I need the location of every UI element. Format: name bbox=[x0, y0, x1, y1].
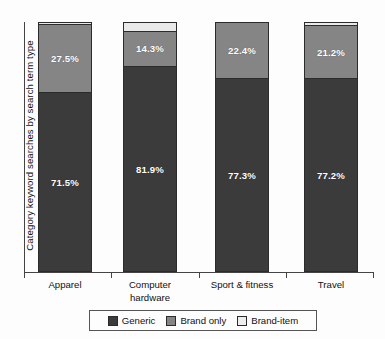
legend-swatch-generic-icon bbox=[108, 316, 118, 326]
x-axis-label-travel: Travel bbox=[291, 279, 371, 292]
segment-label-generic-sport-fitness: 77.3% bbox=[228, 170, 256, 181]
x-axis-label-computer-hardware-line2: hardware bbox=[110, 292, 190, 305]
legend-item-brand-item[interactable]: Brand-item bbox=[237, 315, 298, 326]
segment-label-brand-only-travel: 21.2% bbox=[317, 47, 345, 58]
segment-label-brand-only-sport-fitness: 22.4% bbox=[228, 45, 256, 56]
x-axis-label-apparel: Apparel bbox=[25, 279, 105, 292]
bar-travel[interactable]: 21.2% 77.2% bbox=[304, 22, 358, 272]
bar-apparel[interactable]: 27.5% 71.5% bbox=[38, 22, 92, 272]
x-axis-label-sport-fitness-line1: Sport & fitness bbox=[198, 279, 286, 292]
segment-brand-only-apparel[interactable]: 27.5% bbox=[39, 25, 91, 94]
bar-computer-hardware[interactable]: 14.3% 81.9% bbox=[123, 22, 177, 272]
segment-generic-travel[interactable]: 77.2% bbox=[305, 79, 357, 272]
segment-generic-apparel[interactable]: 71.5% bbox=[39, 93, 91, 272]
x-axis-label-apparel-line1: Apparel bbox=[25, 279, 105, 292]
bar-sport-fitness[interactable]: 22.4% 77.3% bbox=[215, 22, 269, 272]
segment-label-brand-only-computer-hardware: 14.3% bbox=[136, 43, 164, 54]
legend-item-brand-only[interactable]: Brand only bbox=[166, 315, 226, 326]
segment-brand-only-travel[interactable]: 21.2% bbox=[305, 26, 357, 79]
x-axis-label-travel-line1: Travel bbox=[291, 279, 371, 292]
segment-label-brand-only-apparel: 27.5% bbox=[51, 53, 79, 64]
legend-item-generic[interactable]: Generic bbox=[108, 315, 156, 326]
legend-swatch-brand-item-icon bbox=[237, 316, 247, 326]
x-axis-label-computer-hardware: Computer hardware bbox=[110, 279, 190, 304]
legend-swatch-brand-only-icon bbox=[166, 316, 176, 326]
legend-label-brand-item: Brand-item bbox=[251, 315, 298, 326]
segment-label-generic-computer-hardware: 81.9% bbox=[136, 164, 164, 175]
x-axis-label-sport-fitness: Sport & fitness bbox=[198, 279, 286, 292]
stacked-bar-chart: Category keyword searches by search term… bbox=[0, 0, 385, 339]
segment-brand-only-sport-fitness[interactable]: 22.4% bbox=[216, 23, 268, 79]
segment-brand-only-computer-hardware[interactable]: 14.3% bbox=[124, 32, 176, 68]
segment-brand-item-computer-hardware[interactable] bbox=[124, 22, 176, 32]
segment-generic-computer-hardware[interactable]: 81.9% bbox=[124, 67, 176, 272]
x-axis-label-computer-hardware-line1: Computer bbox=[110, 279, 190, 292]
segment-label-generic-travel: 77.2% bbox=[317, 170, 345, 181]
segment-generic-sport-fitness[interactable]: 77.3% bbox=[216, 79, 268, 272]
legend-label-generic: Generic bbox=[122, 315, 156, 326]
legend-label-brand-only: Brand only bbox=[180, 315, 226, 326]
chart-legend: Generic Brand only Brand-item bbox=[89, 310, 317, 331]
segment-label-generic-apparel: 71.5% bbox=[51, 177, 79, 188]
